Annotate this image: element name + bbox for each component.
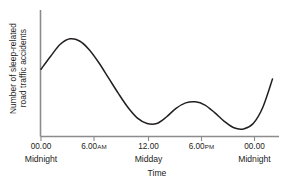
x-tick-label-0: 00.00 — [31, 143, 52, 151]
chart-figure: Number of sleep-related road traffic acc… — [0, 0, 290, 187]
x-tick-time-4: 00.00 — [244, 142, 265, 151]
x-tick-time-0: 00.00 — [31, 142, 52, 151]
x-tick-sublabel-4: Midnight — [238, 155, 270, 164]
accidents-curve — [41, 39, 273, 130]
x-axis-title-text: Time — [148, 169, 167, 178]
x-tick-time-2: 12.00 — [138, 142, 159, 151]
x-tick-meridiem-1: AM — [97, 143, 107, 150]
x-tick-time-3: 6.00 — [189, 142, 205, 151]
x-tick-time-1: 6.00 — [81, 142, 97, 151]
x-axis-title: Time — [0, 169, 290, 178]
x-tick-meridiem-3: PM — [205, 143, 215, 150]
x-tick-sublabel-0: Midnight — [25, 155, 57, 164]
x-tick-label-1: 6.00AM — [81, 143, 107, 151]
x-tick-label-3: 6.00PM — [189, 143, 215, 151]
x-tick-label-4: 00.00 — [244, 143, 265, 151]
x-tick-sublabel-2: Midday — [135, 155, 163, 164]
x-tick-label-2: 12.00 — [138, 143, 159, 151]
x-axis-ticks — [41, 137, 255, 142]
